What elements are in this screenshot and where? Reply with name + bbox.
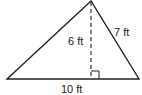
base-label: 10 ft [61,83,82,95]
side-label: 7 ft [114,26,129,38]
triangle-diagram: 6 ft 7 ft 10 ft [0,0,142,95]
height-label: 6 ft [68,35,83,47]
right-angle-marker [91,71,99,79]
